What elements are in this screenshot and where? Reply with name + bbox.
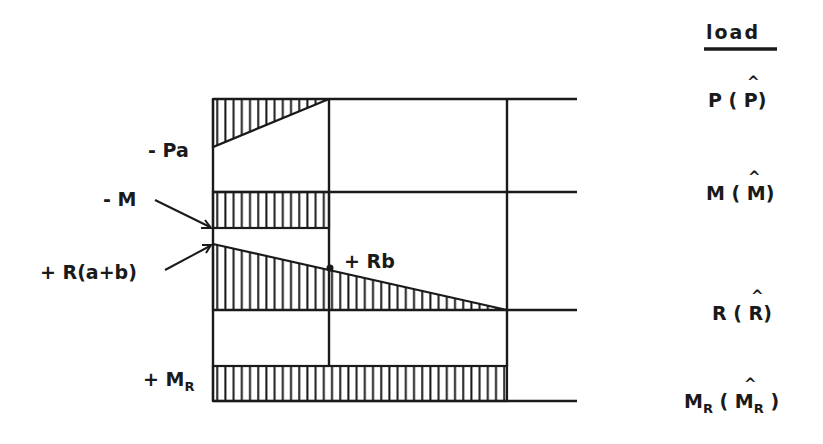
row-r-influence (213, 244, 577, 310)
rb-point-marker (327, 265, 334, 272)
row-m-influence (213, 192, 577, 228)
plus-mr-main: + M (143, 368, 184, 390)
legend-p: P ( P) (708, 89, 766, 111)
row-p-influence (213, 99, 577, 147)
plus-r-ab-label: + R(a+b) (40, 261, 137, 283)
plus-mr-label: + MR (143, 368, 194, 394)
legend-mr: MR ( MR ) (684, 390, 779, 416)
leader-lines (155, 200, 211, 270)
p-hatched-area (213, 99, 329, 147)
legend-r-hat: R (749, 302, 764, 324)
row-mr-influence (213, 366, 577, 401)
legend-header: load (706, 21, 760, 43)
plus-rb-label: + Rb (344, 250, 395, 272)
legend-m-hat-mark: ^ (748, 168, 761, 186)
m-hatched-area (213, 192, 329, 228)
plus-rab-leader (165, 246, 210, 270)
legend-p-hat-mark: ^ (747, 73, 760, 91)
legend-r: R ( R) (712, 302, 772, 324)
plus-mr-subscript: R (184, 379, 194, 394)
minus-m-leader (155, 200, 210, 227)
mr-hatched-area (213, 366, 507, 401)
minus-pa-label: - Pa (148, 139, 189, 161)
legend-p-hat: P (744, 89, 758, 111)
influence-line-diagram: - Pa - M + R(a+b) + Rb + MR load P ( P) … (0, 0, 823, 444)
load-legend: load P ( P) ^ M ( M) ^ R ( R) ^ MR ( MR … (684, 21, 779, 416)
minus-m-label: - M (103, 188, 136, 210)
legend-r-hat-mark: ^ (751, 287, 764, 305)
legend-m: M ( M) (706, 182, 774, 204)
legend-mr-hat: M (735, 390, 754, 412)
legend-mr-hat-mark: ^ (744, 375, 757, 393)
